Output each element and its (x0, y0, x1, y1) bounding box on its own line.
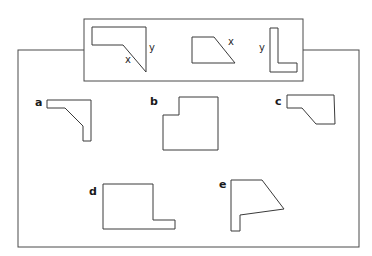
edge-label-x: x (125, 54, 131, 65)
option-label: c (275, 95, 282, 108)
edge-label-y: y (259, 42, 265, 53)
puzzle-diagram: xyxy abcde (0, 0, 372, 256)
edge-label-x: x (228, 36, 234, 47)
edge-label-y: y (149, 42, 155, 53)
option-label: e (219, 178, 226, 191)
option-label: d (89, 185, 97, 198)
option-label: a (35, 96, 42, 109)
option-label: b (150, 95, 158, 108)
